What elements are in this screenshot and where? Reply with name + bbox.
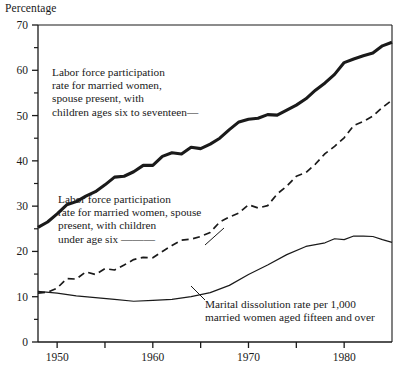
x-tick-label: 1980 (333, 351, 356, 363)
y-tick-label: 50 (17, 110, 29, 122)
y-axis-tick-labels: 010203040506070 (17, 19, 29, 348)
leader-line-marital (191, 286, 205, 300)
x-tick-label: 1960 (141, 351, 164, 363)
y-tick-label: 10 (17, 291, 29, 303)
leader-line-under-six (205, 228, 224, 245)
y-tick-label: 0 (22, 336, 28, 348)
annotation-children-under-six: Labor force participation rate for marri… (58, 193, 201, 246)
y-tick-label: 30 (17, 200, 29, 212)
x-tick-label: 1970 (237, 351, 260, 363)
y-axis-ticks (32, 25, 38, 342)
y-tick-label: 60 (17, 64, 29, 76)
annotation-marital-dissolution: Marital dissolution rate per 1,000 marri… (205, 298, 375, 324)
annotation-children-six-to-seventeen: Labor force participation rate for marri… (52, 66, 198, 119)
chart-figure: Percentage 010203040506070 1950196019701… (0, 0, 411, 369)
x-tick-label: 1950 (46, 351, 69, 363)
y-tick-label: 70 (17, 19, 29, 31)
x-axis-tick-labels: 1950196019701980 (46, 351, 356, 363)
y-tick-label: 20 (17, 245, 29, 257)
x-axis-ticks (57, 342, 344, 348)
y-tick-label: 40 (17, 155, 29, 167)
